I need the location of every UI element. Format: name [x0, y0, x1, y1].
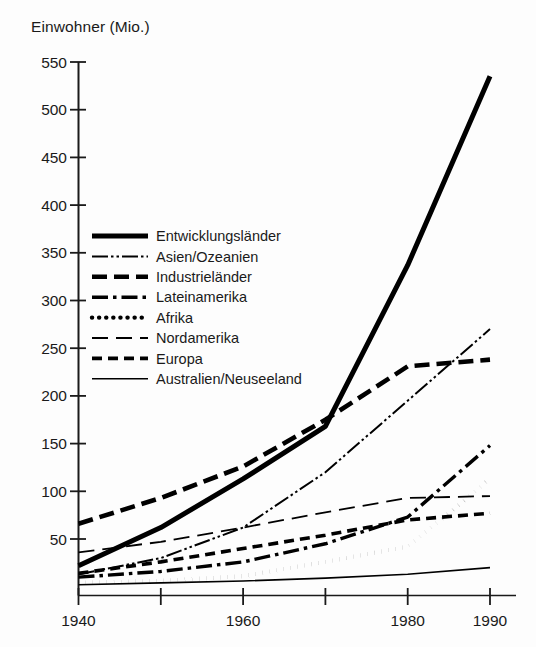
y-axis-tick-label: 250: [41, 340, 67, 357]
y-axis-tick-label: 300: [41, 292, 67, 309]
x-axis-tick-label: 1980: [390, 612, 425, 629]
y-axis-tick-label: 450: [41, 149, 67, 166]
series-line-entwicklungsl-nder: [79, 76, 491, 565]
series-line-australien-neuseeland: [79, 568, 491, 585]
series-line-nordamerika: [79, 496, 491, 552]
legend-label: Entwicklungsländer: [156, 228, 281, 244]
chart-legend: EntwicklungsländerAsien/OzeanienIndustri…: [92, 228, 302, 387]
legend-label: Nordamerika: [156, 330, 240, 346]
legend-label: Industrieländer: [156, 269, 252, 285]
y-axis-tick-label: 50: [50, 531, 68, 548]
legend-label: Asien/Ozeanien: [156, 249, 258, 265]
x-axis-tick-label: 1990: [473, 612, 508, 629]
y-axis-tick-label: 200: [41, 387, 67, 404]
series-line-afrika: [79, 479, 491, 583]
x-axis-ticks: 1940196019801990: [61, 588, 507, 629]
y-axis-tick-label: 400: [41, 197, 67, 214]
population-line-chart: Einwohner (Mio.) 50100150200250300350400…: [0, 0, 536, 647]
legend-label: Afrika: [156, 310, 194, 326]
y-axis-tick-label: 150: [41, 435, 67, 452]
legend-label: Europa: [156, 351, 204, 367]
x-axis-tick-label: 1960: [226, 612, 261, 629]
chart-canvas: 50100150200250300350400450500550 1940196…: [0, 0, 536, 647]
series-line-lateinamerika: [79, 446, 491, 578]
series-line-europa: [79, 513, 491, 573]
legend-label: Australien/Neuseeland: [156, 371, 302, 387]
y-axis-tick-label: 350: [41, 244, 67, 261]
y-axis-tick-label: 100: [41, 483, 67, 500]
x-axis-tick-label: 1940: [61, 612, 96, 629]
data-series-group: [79, 76, 491, 584]
legend-label: Lateinamerika: [156, 289, 248, 305]
y-axis-tick-label: 550: [41, 54, 67, 71]
y-axis-tick-label: 500: [41, 101, 67, 118]
